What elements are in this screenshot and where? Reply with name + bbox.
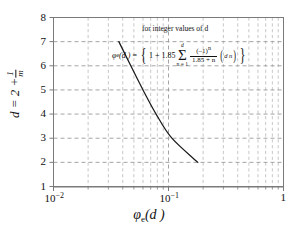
annotation-formula: φe(d ) = { 1 + 1.85 d Σ n = 1 (–1)n 1.85… xyxy=(112,43,247,67)
formula-equals: = xyxy=(132,51,137,60)
y-axis-title-fraction-denominator: m xyxy=(17,69,26,78)
formula-fraction-denominator: 1.85 + n xyxy=(190,57,217,65)
x-axis-tick-label: 10−1 xyxy=(160,191,180,204)
y-axis-tick-label: 7 xyxy=(30,35,46,47)
y-axis-tick-label: 4 xyxy=(30,107,46,119)
annotation-note: for integer values of d xyxy=(142,24,208,33)
y-axis-tick-label: 2 xyxy=(30,155,46,167)
formula-leading-term: 1 + 1.85 xyxy=(149,51,176,60)
sigma-icon: Σ xyxy=(178,49,187,61)
binomial-stack: d n xyxy=(224,52,232,59)
formula-summation: d Σ n = 1 xyxy=(177,43,188,67)
y-axis-tick-label: 8 xyxy=(30,11,46,23)
x-axis-tick-label: 10−2 xyxy=(45,191,65,204)
y-axis-title: d = 2 +1m xyxy=(6,44,25,144)
y-axis-title-fraction: 1m xyxy=(6,69,25,78)
formula-phi-argument: (d ) xyxy=(119,51,130,60)
formula-fraction-numerator-base: (–1) xyxy=(196,47,208,55)
formula-binomial-coefficient: ( d n ) xyxy=(219,52,237,59)
binomial-top: d xyxy=(224,52,227,59)
y-axis-tick-label: 3 xyxy=(30,131,46,143)
annotation-note-text: for integer values of d xyxy=(142,24,208,33)
binomial-bottom: n xyxy=(229,52,232,59)
chart-figure: d = 2 +1m φe(d ) for integer values of d… xyxy=(0,0,298,239)
y-axis-tick-label: 5 xyxy=(30,83,46,95)
y-axis-title-text: d = 2 + xyxy=(7,78,22,118)
y-axis-tick-label: 6 xyxy=(30,59,46,71)
formula-summation-lower-limit: n = 1 xyxy=(177,62,188,68)
x-axis-tick-label: 1 xyxy=(281,191,287,203)
x-axis-title: φe(d ) xyxy=(0,207,298,224)
formula-fraction: (–1)n 1.85 + n xyxy=(190,45,217,64)
formula-fraction-numerator-exponent: n xyxy=(208,45,211,51)
x-axis-title-base: φ xyxy=(133,207,141,222)
x-axis-title-argument: (d ) xyxy=(145,207,165,222)
y-axis-tick-label: 1 xyxy=(30,180,46,192)
